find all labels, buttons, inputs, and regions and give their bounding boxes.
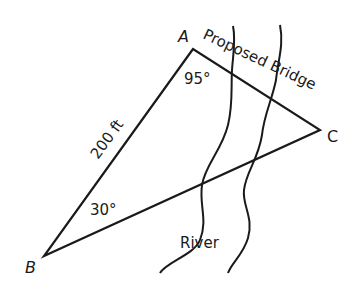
- angle-a-label: 95°: [184, 70, 211, 88]
- vertex-label-a: A: [177, 27, 189, 46]
- triangle-abc: [44, 49, 320, 256]
- vertex-label-c: C: [327, 127, 338, 146]
- vertex-label-b: B: [25, 258, 36, 277]
- side-ab-length-label: 200 ft: [87, 116, 128, 163]
- proposed-bridge-label: Proposed Bridge: [200, 25, 319, 93]
- river-label: River: [180, 234, 220, 252]
- angle-b-label: 30°: [90, 201, 117, 219]
- triangle-river-diagram: A B C 200 ft Proposed Bridge 95° 30° Riv…: [0, 0, 358, 297]
